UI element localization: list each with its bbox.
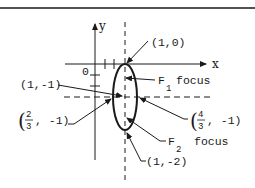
left-vertex-pointer — [68, 99, 111, 124]
f1-pointer — [126, 78, 155, 80]
right-vertex-den: 3 — [198, 122, 203, 132]
f2-focus-text: focus — [194, 135, 229, 148]
top-vertex-pointer — [127, 41, 148, 63]
right-vertex-paren: ( — [190, 109, 198, 133]
right-vertex-num: 4 — [198, 110, 203, 120]
bottom-vertex-label: (1,-2) — [146, 155, 187, 168]
top-vertex-label: (1,0) — [151, 36, 186, 49]
ellipse-diagram: y x 0 (1,0) F 1 focus (1,-1) ( 2 3 , -1)… — [0, 0, 255, 188]
left-vertex-den: 3 — [26, 122, 31, 132]
left-vertex-num: 2 — [26, 110, 31, 120]
f1-subscript: 1 — [166, 84, 171, 94]
center-label: (1,-1) — [20, 78, 61, 91]
f1-focus-text: focus — [176, 74, 211, 87]
x-axis-label: x — [212, 57, 219, 71]
right-vertex-label: ( 4 3 , -1) — [190, 109, 242, 133]
right-vertex-pointer — [140, 98, 188, 119]
left-vertex-label: ( 2 3 , -1) — [18, 109, 70, 133]
bottom-vertex-pointer — [127, 133, 146, 161]
f2-letter: F — [168, 135, 175, 148]
left-vertex-paren: ( — [18, 109, 26, 133]
right-vertex-rest: , -1) — [207, 114, 242, 127]
y-axis-label: y — [98, 19, 106, 33]
left-vertex-rest: , -1) — [35, 114, 70, 127]
origin-label: 0 — [82, 65, 89, 78]
f2-subscript: 2 — [176, 145, 181, 155]
f1-letter: F — [158, 74, 165, 87]
